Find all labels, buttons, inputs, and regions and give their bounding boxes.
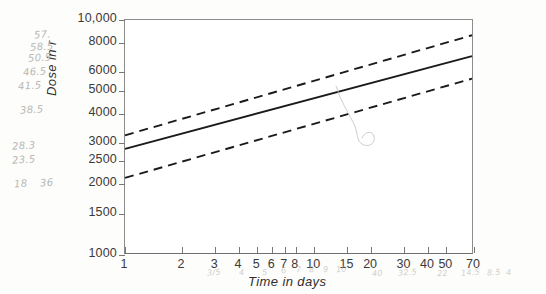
handwritten-annotation: 3/5 <box>207 268 221 278</box>
x-axis-tick <box>239 247 240 253</box>
handwritten-annotation: 22 <box>437 269 448 279</box>
handwritten-annotation: 32.5 <box>398 267 418 277</box>
x-axis-tick <box>446 247 447 253</box>
x-axis-title: Time in days <box>248 274 326 289</box>
y-axis-tick-label: 3000 <box>88 134 117 148</box>
data-line <box>125 56 472 149</box>
handwritten-annotation: 4 <box>506 268 512 277</box>
y-axis-tick-label: 4000 <box>88 105 117 119</box>
x-axis-tick <box>314 247 315 253</box>
x-axis-tick <box>347 247 348 253</box>
y-axis-tick-label: 1500 <box>88 205 117 219</box>
y-axis-tick <box>119 20 125 21</box>
handwritten-annotation: 6 <box>281 266 287 275</box>
handwritten-annotation: 4 <box>239 268 245 277</box>
handwritten-annotation: 41.5 <box>18 79 42 92</box>
y-axis-tick <box>119 114 125 115</box>
data-lines <box>125 20 472 253</box>
x-axis-tick <box>257 247 258 253</box>
handwritten-annotation: 18 <box>14 178 28 190</box>
x-axis-tick <box>404 247 405 253</box>
chart-screenshot: 10001500200025003000400050006000800010,0… <box>0 0 546 294</box>
x-axis-tick-label: 2 <box>177 257 184 271</box>
x-axis-tick <box>215 247 216 253</box>
y-axis-tick <box>119 214 125 215</box>
y-axis-tick-label: 5000 <box>88 82 117 96</box>
handwritten-annotation: 8 <box>309 265 315 274</box>
handwritten-annotation: 23.5 <box>12 153 36 166</box>
handwritten-annotation: 28.3 <box>12 139 36 152</box>
x-axis-tick <box>285 247 286 253</box>
handwritten-annotation: 38.5 <box>20 103 44 116</box>
y-axis-tick-label: 8000 <box>88 34 117 48</box>
y-axis-tick-label: 1000 <box>88 246 117 260</box>
x-axis-tick-label: 6 <box>268 257 275 271</box>
y-axis-tick <box>119 143 125 144</box>
handwritten-annotation: 10 <box>336 265 347 275</box>
x-axis-tick-label: 40 <box>420 257 434 271</box>
y-axis-tick <box>119 255 125 256</box>
y-axis-tick-label: 2500 <box>88 152 117 166</box>
y-axis-tick-label: 6000 <box>88 63 117 77</box>
x-axis-tick <box>428 247 429 253</box>
y-axis-tick <box>119 91 125 92</box>
x-axis-tick <box>371 247 372 253</box>
y-axis-tick <box>119 184 125 185</box>
x-axis-tick <box>296 247 297 253</box>
handwritten-annotation: 9 <box>323 265 329 274</box>
handwritten-annotation: 50.5 <box>28 51 52 64</box>
x-axis-tick <box>272 247 273 253</box>
y-axis-tick-label: 10,000 <box>78 11 117 25</box>
handwritten-annotation: 5 <box>262 268 268 277</box>
x-axis-tick <box>125 247 126 253</box>
data-line <box>125 35 472 135</box>
handwritten-annotation: 57. <box>34 28 52 40</box>
y-axis-tick <box>119 43 125 44</box>
handwritten-annotation: 8.5 <box>487 268 501 278</box>
handwritten-annotation: 36 <box>40 177 54 189</box>
x-axis-tick <box>182 247 183 253</box>
y-axis-tick-label: 2000 <box>88 175 117 189</box>
plot-area <box>124 19 473 254</box>
data-line <box>125 79 472 178</box>
x-axis-tick-label: 1 <box>121 257 128 271</box>
x-axis-tick <box>474 247 475 253</box>
handwritten-annotation: 46.5 <box>23 65 47 78</box>
handwritten-annotation: 40 <box>372 269 383 279</box>
handwritten-annotation: 14.5 <box>461 267 481 277</box>
x-axis-tick-label: 5 <box>253 257 260 271</box>
y-axis-tick <box>119 72 125 73</box>
handwritten-annotation: 7 <box>296 265 302 274</box>
y-axis-tick <box>119 161 125 162</box>
